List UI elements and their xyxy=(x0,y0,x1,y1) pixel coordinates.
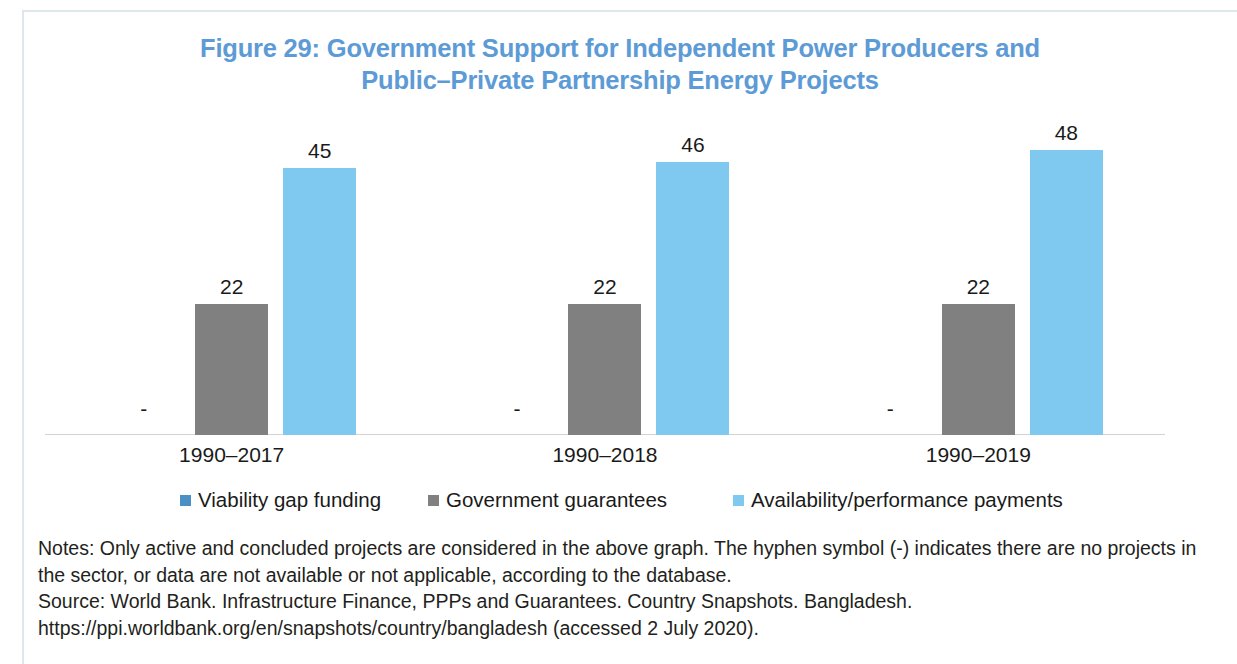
bar-group: -2248 xyxy=(792,120,1165,435)
bar-value-label: 22 xyxy=(593,275,616,299)
source-text: Source: World Bank. Infrastructure Finan… xyxy=(38,588,1213,641)
chart-bar: 48 xyxy=(1030,150,1103,435)
chart-bar: 22 xyxy=(195,304,268,435)
page-border-left xyxy=(22,10,24,664)
missing-value-marker: - xyxy=(513,398,520,419)
missing-value-marker: - xyxy=(887,398,894,419)
chart-legend: Viability gap fundingGovernment guarante… xyxy=(45,489,1165,517)
legend-swatch-icon xyxy=(428,495,439,506)
missing-value-slot: - xyxy=(480,120,553,435)
category-label: 1990–2017 xyxy=(45,443,418,467)
bar-value-label: 22 xyxy=(967,275,990,299)
chart-bar: 46 xyxy=(656,162,729,435)
bar-group: -2246 xyxy=(418,120,791,435)
category-label: 1990–2019 xyxy=(792,443,1165,467)
legend-label: Government guarantees xyxy=(446,489,667,511)
bar-value-label: 46 xyxy=(681,133,704,157)
bar-value-label: 22 xyxy=(220,275,243,299)
bar-value-label: 45 xyxy=(308,139,331,163)
bar-group: -2245 xyxy=(45,120,418,435)
chart-plot-area: -2245-2246-2248 xyxy=(45,120,1165,435)
legend-label: Availability/performance payments xyxy=(751,489,1063,511)
notes-text: Notes: Only active and concluded project… xyxy=(38,535,1213,588)
missing-value-marker: - xyxy=(140,398,147,419)
legend-swatch-icon xyxy=(733,495,744,506)
page-border-top xyxy=(22,10,1237,12)
missing-value-slot: - xyxy=(107,120,180,435)
chart-bar: 22 xyxy=(942,304,1015,435)
figure-title: Figure 29: Government Support for Indepe… xyxy=(110,32,1130,96)
chart-bar: 45 xyxy=(283,168,356,435)
figure-title-line-1: Figure 29: Government Support for Indepe… xyxy=(110,32,1130,64)
chart-bar: 22 xyxy=(568,304,641,435)
legend-item[interactable]: Availability/performance payments xyxy=(733,489,1063,511)
missing-value-slot: - xyxy=(854,120,927,435)
x-axis-category-labels: 1990–20171990–20181990–2019 xyxy=(45,443,1165,473)
legend-item[interactable]: Government guarantees xyxy=(428,489,667,511)
figure-title-line-2: Public–Private Partnership Energy Projec… xyxy=(110,64,1130,96)
bar-value-label: 48 xyxy=(1055,121,1078,145)
category-label: 1990–2018 xyxy=(418,443,791,467)
figure-page: Figure 29: Government Support for Indepe… xyxy=(0,0,1237,664)
legend-item[interactable]: Viability gap funding xyxy=(180,489,381,511)
figure-footnotes: Notes: Only active and concluded project… xyxy=(38,535,1213,641)
legend-swatch-icon xyxy=(180,495,191,506)
legend-label: Viability gap funding xyxy=(198,489,381,511)
